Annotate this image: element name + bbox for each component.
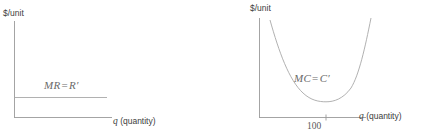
mc-x-tick-label-100: 100 <box>307 121 321 131</box>
mc-curve-label-suffix: C′ <box>320 72 330 84</box>
mc-y-axis-label: $/unit <box>250 3 271 13</box>
mr-curve-label-operator: = <box>60 79 69 91</box>
mc-curve-label-prefix: MC <box>294 72 311 84</box>
mc-curve-label: MC=C′ <box>294 72 330 84</box>
figure-canvas: $/unit MR=R′ q (quantity) $/unit MC=C′ q… <box>0 0 426 140</box>
mr-curve-label-suffix: R′ <box>69 79 79 91</box>
mc-x-axis-label: q (quantity) <box>359 105 402 123</box>
mr-x-axis-label: q (quantity) <box>113 110 156 128</box>
mr-curve-label: MR=R′ <box>44 79 79 91</box>
mr-curve-label-prefix: MR <box>44 79 60 91</box>
mc-curve-label-operator: = <box>311 72 320 84</box>
marginal-revenue-chart: $/unit MR=R′ q (quantity) <box>0 0 213 140</box>
mc-x-axis-text: (quantity) <box>366 111 401 121</box>
mr-x-axis-text: (quantity) <box>120 116 155 126</box>
marginal-revenue-plot-area <box>0 0 213 140</box>
mr-y-axis-label: $/unit <box>3 8 24 18</box>
marginal-cost-chart: $/unit MC=C′ q (quantity) 100 <box>213 0 426 140</box>
mc-curve <box>270 18 371 102</box>
